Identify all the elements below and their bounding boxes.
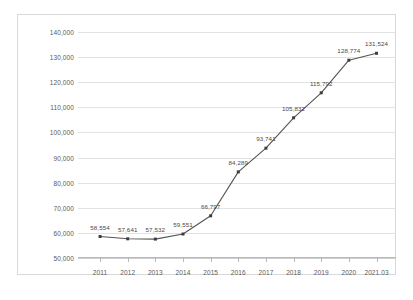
- x-axis-tick-label: 2015: [203, 269, 218, 276]
- y-axis-tick-label: 100,000: [50, 129, 74, 136]
- data-point-marker: [182, 233, 185, 236]
- x-axis-tick-label: 2017: [259, 269, 274, 276]
- data-point-marker: [264, 147, 267, 150]
- series-line-chart: [78, 32, 396, 258]
- x-axis-tick-mark: [155, 258, 156, 262]
- x-axis-tick-mark: [238, 258, 239, 262]
- y-axis-tick-label: 130,000: [50, 54, 74, 61]
- x-axis-tick-label: 2013: [148, 269, 163, 276]
- x-axis-tick-label: 2021.03: [364, 269, 388, 276]
- data-point-marker: [237, 170, 240, 173]
- x-axis-tick-mark: [100, 258, 101, 262]
- x-axis-tick-label: 2019: [314, 269, 329, 276]
- chart-title: [0, 0, 413, 5]
- data-point-marker: [209, 214, 212, 217]
- x-axis-tick-label: 2012: [120, 269, 135, 276]
- x-axis-tick-mark: [321, 258, 322, 262]
- x-axis-tick-label: 2018: [286, 269, 301, 276]
- x-axis-tick-mark: [294, 258, 295, 262]
- x-axis-tick-mark: [377, 258, 378, 262]
- y-axis-tick-label: 60,000: [54, 229, 74, 236]
- x-axis-tick-mark: [183, 258, 184, 262]
- x-axis-tick-label: 2014: [176, 269, 191, 276]
- x-axis-tick-mark: [211, 258, 212, 262]
- x-axis-tick-label: 2020: [341, 269, 356, 276]
- x-axis-tick-mark: [349, 258, 350, 262]
- y-axis-tick-label: 70,000: [54, 204, 74, 211]
- x-axis-tick-mark: [266, 258, 267, 262]
- series-markers: [99, 52, 378, 241]
- y-axis-tick-label: 50,000: [54, 255, 74, 262]
- y-axis-tick-label: 140,000: [50, 29, 74, 36]
- chart-frame: 50,00060,00070,00080,00090,000100,000110…: [17, 14, 396, 275]
- data-point-marker: [375, 52, 378, 55]
- data-point-marker: [99, 235, 102, 238]
- y-axis-tick-label: 120,000: [50, 79, 74, 86]
- data-point-marker: [126, 237, 129, 240]
- data-point-marker: [347, 59, 350, 62]
- y-axis-tick-label: 90,000: [54, 154, 74, 161]
- y-axis-tick-label: 80,000: [54, 179, 74, 186]
- data-point-marker: [154, 238, 157, 241]
- series-polyline: [100, 53, 376, 239]
- plot-area: 50,00060,00070,00080,00090,000100,000110…: [78, 32, 396, 258]
- x-axis-tick-label: 2016: [231, 269, 246, 276]
- x-axis-tick-label: 2011: [93, 269, 107, 276]
- y-axis-tick-label: 110,000: [50, 104, 74, 111]
- x-axis-tick-mark: [128, 258, 129, 262]
- data-point-marker: [292, 116, 295, 119]
- data-point-marker: [320, 91, 323, 94]
